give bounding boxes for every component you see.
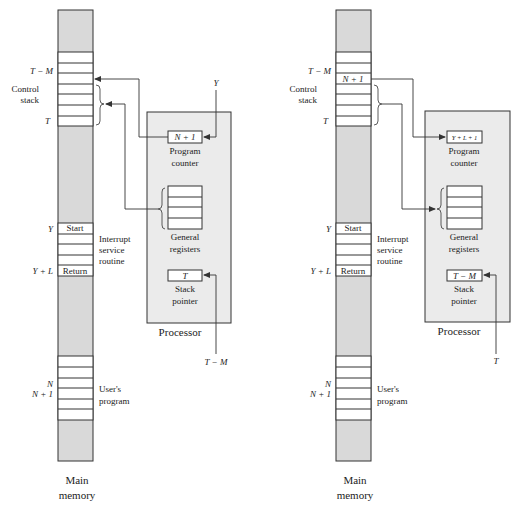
isr-label-3: routine: [377, 256, 403, 266]
program-counter-value: Y + L + 1: [452, 134, 478, 141]
stack-pointer-label-2: pointer: [172, 296, 198, 306]
general-registers: [168, 186, 202, 229]
label-t: T: [323, 116, 329, 126]
isr-label-2: service: [99, 245, 124, 255]
main-memory-title-2: memory: [59, 489, 96, 501]
label-n-plus-1: N + 1: [31, 389, 53, 399]
isr-label-1: Interrupt: [377, 234, 409, 244]
main-memory-column: [58, 10, 93, 461]
isr-label-2: service: [377, 245, 402, 255]
label-y-plus-l: Y + L: [310, 266, 331, 276]
main-memory-title-1: Main: [343, 474, 367, 486]
program-counter-label-1: Program: [449, 146, 480, 156]
main-memory-title-2: memory: [337, 489, 374, 501]
stack-pointer-label-1: Stack: [454, 284, 474, 294]
general-registers-label-1: General: [171, 232, 200, 242]
label-y-plus-l: Y + L: [32, 266, 53, 276]
isr-label-3: routine: [99, 256, 125, 266]
label-t: T: [45, 116, 51, 126]
program-counter-label-1: Program: [170, 146, 201, 156]
label-n-plus-1: N + 1: [309, 389, 331, 399]
label-t-minus-m: T − M: [308, 66, 331, 76]
general-registers: [447, 186, 482, 229]
label-stack: stack: [21, 95, 40, 105]
user-program-label-2: program: [377, 396, 408, 406]
stack-pointer-label-1: Stack: [175, 284, 195, 294]
user-program-label-1: User's: [99, 384, 122, 394]
return-label: Return: [341, 266, 366, 276]
label-y: Y: [48, 224, 54, 234]
label-control: Control: [289, 84, 317, 94]
program-counter-label-2: counter: [451, 158, 478, 168]
control-stack-brace: [96, 85, 104, 125]
user-program-label-2: program: [99, 396, 130, 406]
isr-label-1: Interrupt: [99, 234, 131, 244]
general-registers-label-2: registers: [449, 244, 480, 254]
processor-title: Processor: [159, 326, 202, 338]
stack-pointer-label-2: pointer: [451, 296, 477, 306]
general-registers-label-2: registers: [170, 244, 201, 254]
program-counter-label-2: counter: [172, 158, 199, 168]
start-label: Start: [345, 223, 362, 233]
stack-cell-value: N + 1: [341, 74, 363, 84]
panel-before: Start Return T − M Control stack T Y Y +…: [11, 10, 231, 501]
start-label: Start: [67, 223, 84, 233]
pc-input-label: Y: [213, 78, 219, 88]
main-memory-title-1: Main: [65, 474, 89, 486]
label-stack: stack: [299, 95, 318, 105]
stack-pointer-value: T − M: [453, 271, 476, 281]
interrupt-diagram: Start Return T − M Control stack T Y Y +…: [0, 0, 517, 517]
sp-input-label: T − M: [205, 357, 228, 367]
panel-after: N + 1 Start Return T − M Control stack T…: [289, 10, 510, 501]
user-program-label-1: User's: [377, 384, 400, 394]
processor-title: Processor: [438, 325, 481, 337]
general-registers-label-1: General: [450, 232, 479, 242]
label-control: Control: [11, 84, 39, 94]
label-t-minus-m: T − M: [30, 66, 53, 76]
label-n: N: [324, 379, 332, 389]
return-label: Return: [63, 266, 88, 276]
control-stack-brace: [374, 85, 382, 125]
sp-input-label: T: [493, 356, 499, 366]
label-n: N: [46, 379, 54, 389]
label-y: Y: [326, 224, 332, 234]
program-counter-value: N + 1: [173, 132, 195, 142]
